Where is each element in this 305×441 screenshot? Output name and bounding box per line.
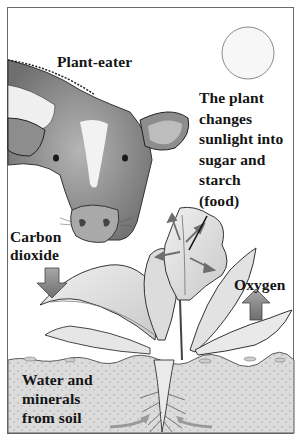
plant-eater-label: Plant-eater [57, 53, 132, 71]
oxygen-label: Oxygen [234, 276, 285, 294]
plant-process-label: The plant changes sunlight into sugar an… [199, 88, 283, 211]
cow-head-icon [8, 60, 189, 242]
sun-icon [222, 27, 274, 79]
carbon-dioxide-label: Carbon dioxide [10, 228, 61, 264]
water-minerals-label: Water and minerals from soil [22, 370, 93, 427]
